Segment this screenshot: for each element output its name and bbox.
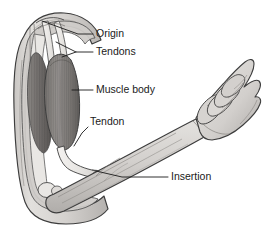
anatomy-figure-container: Origin Tendons Muscle body Tendon Insert…	[0, 0, 267, 236]
label-insertion: Insertion	[171, 170, 211, 182]
arm-anatomy-diagram: Origin Tendons Muscle body Tendon Insert…	[0, 0, 267, 236]
label-muscle-body: Muscle body	[96, 83, 156, 95]
label-tendon: Tendon	[90, 115, 125, 127]
label-origin: Origin	[96, 27, 124, 39]
label-tendons: Tendons	[96, 45, 136, 57]
